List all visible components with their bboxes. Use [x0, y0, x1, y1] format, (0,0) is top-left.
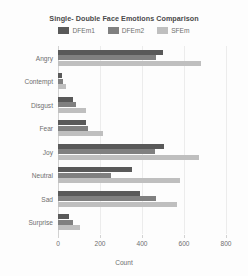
- legend-label: SFEm: [171, 27, 189, 34]
- x-axis-title: Count: [0, 259, 248, 266]
- bar[interactable]: [58, 196, 156, 201]
- bar[interactable]: [58, 144, 164, 149]
- x-axis-tick-mark: [100, 235, 101, 238]
- bar[interactable]: [58, 84, 66, 89]
- bar[interactable]: [58, 225, 80, 230]
- x-axis-tick-mark: [184, 235, 185, 238]
- x-axis-tick-label: 800: [220, 240, 231, 247]
- legend-label: DFEm1: [72, 27, 94, 34]
- x-axis-tick-mark: [142, 235, 143, 238]
- bar-chart: Single- Double Face Emotions Comparison …: [0, 0, 248, 276]
- y-axis-tick-label: Joy: [43, 148, 53, 155]
- bar[interactable]: [58, 108, 86, 113]
- bar[interactable]: [58, 155, 199, 160]
- y-axis-tick-label: Fear: [39, 125, 53, 132]
- bar-group: [58, 214, 226, 230]
- bar[interactable]: [58, 173, 111, 178]
- bar-group: [58, 73, 226, 89]
- legend-label: DFEm2: [122, 27, 144, 34]
- bar[interactable]: [58, 202, 177, 207]
- x-axis-tick-mark: [58, 235, 59, 238]
- bar[interactable]: [58, 191, 140, 196]
- y-axis-tick-label: Disgust: [31, 101, 53, 108]
- y-axis-tick-label: Sad: [41, 195, 53, 202]
- bar[interactable]: [58, 61, 201, 66]
- bar[interactable]: [58, 126, 88, 131]
- y-axis-tick-label: Surprise: [28, 219, 53, 226]
- y-axis-tick-label: Contempt: [24, 78, 53, 85]
- legend-swatch-icon: [58, 27, 69, 34]
- legend-swatch-icon: [157, 27, 168, 34]
- bar-group: [58, 144, 226, 160]
- bar[interactable]: [58, 178, 180, 183]
- bar[interactable]: [58, 50, 163, 55]
- y-axis-category-labels: AngryContemptDisgustFearJoyNeutralSadSur…: [0, 46, 56, 234]
- bar-group: [58, 97, 226, 113]
- x-axis-tick-labels: 0200400600800: [0, 240, 248, 250]
- bar[interactable]: [58, 131, 103, 136]
- bar[interactable]: [58, 102, 76, 107]
- legend-entry[interactable]: DFEm2: [108, 27, 144, 34]
- bar[interactable]: [58, 73, 62, 78]
- x-axis-tick-label: 600: [178, 240, 189, 247]
- bar-group: [58, 120, 226, 136]
- x-axis-tick-label: 200: [94, 240, 105, 247]
- gridline: [226, 46, 227, 234]
- chart-title: Single- Double Face Emotions Comparison: [0, 14, 248, 23]
- bar[interactable]: [58, 220, 73, 225]
- plot-area: [58, 46, 226, 234]
- bar[interactable]: [58, 214, 69, 219]
- legend-entry[interactable]: DFEm1: [58, 27, 94, 34]
- bar[interactable]: [58, 149, 155, 154]
- bar[interactable]: [58, 120, 86, 125]
- bar[interactable]: [58, 167, 132, 172]
- x-axis-tick-mark: [226, 235, 227, 238]
- legend-entry[interactable]: SFEm: [157, 27, 189, 34]
- x-axis-tick-label: 400: [136, 240, 147, 247]
- chart-legend: DFEm1DFEm2SFEm: [0, 27, 248, 34]
- y-axis-tick-label: Angry: [36, 54, 53, 61]
- bar-group: [58, 50, 226, 66]
- bar-group: [58, 191, 226, 207]
- bar[interactable]: [58, 97, 73, 102]
- bar[interactable]: [58, 79, 63, 84]
- x-axis-tick-label: 0: [56, 240, 60, 247]
- bar[interactable]: [58, 55, 156, 60]
- bar-group: [58, 167, 226, 183]
- legend-swatch-icon: [108, 27, 119, 34]
- y-axis-tick-label: Neutral: [32, 172, 53, 179]
